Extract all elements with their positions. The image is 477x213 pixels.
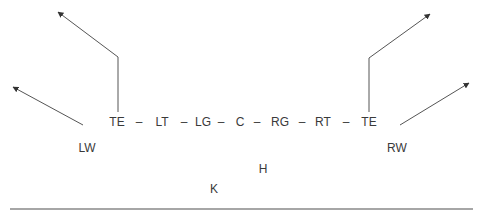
route-te-right-arrow xyxy=(369,14,430,112)
line-separator: – xyxy=(254,116,261,128)
player-te-right: TE xyxy=(361,116,376,128)
routes-layer xyxy=(13,12,469,125)
route-lw-arrow xyxy=(13,87,83,125)
player-h: H xyxy=(259,163,268,175)
player-rw: RW xyxy=(387,142,407,154)
route-te-left-arrow xyxy=(58,12,118,112)
line-separator: – xyxy=(218,116,225,128)
route-rw-arrow xyxy=(400,83,469,125)
player-lg: LG xyxy=(195,116,211,128)
line-separator: – xyxy=(299,116,306,128)
formation-diagram: TE LT LG C RG RT TE – – – – – – LW RW H … xyxy=(0,0,477,213)
player-lw: LW xyxy=(78,142,95,154)
formation-svg xyxy=(0,0,477,213)
player-te-left: TE xyxy=(109,116,124,128)
player-rt: RT xyxy=(315,116,331,128)
line-separator: – xyxy=(136,116,143,128)
line-separator: – xyxy=(181,116,188,128)
player-c: C xyxy=(236,116,245,128)
line-separator: – xyxy=(343,116,350,128)
player-lt: LT xyxy=(155,116,168,128)
player-rg: RG xyxy=(271,116,289,128)
player-k: K xyxy=(210,183,218,195)
